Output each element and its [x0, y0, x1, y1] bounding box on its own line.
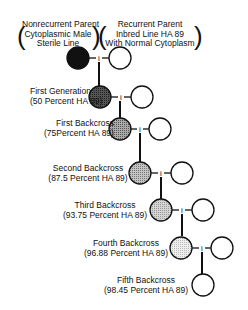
generation-label-2: First Backcross (75Percent HA 89) [44, 118, 108, 138]
generation-label-1: First Generation (50 Percent HA 89) [30, 86, 86, 106]
second-backcross-circle [129, 162, 151, 184]
fifth-backcross-circle [192, 274, 214, 296]
svg-text:i: i [120, 93, 122, 102]
pedigree-diagram: i i i i i i [0, 0, 248, 310]
generation-label-4: Third Backcross (93.75 Percent HA 89) [62, 200, 148, 220]
svg-text:i: i [98, 54, 100, 63]
nonrecurrent-parent-circle [67, 47, 89, 69]
svg-text:i: i [201, 244, 203, 253]
generation-label-3: Second Backcross (87.5 Percent HA 89) [48, 163, 128, 183]
svg-text:i: i [160, 169, 162, 178]
generation-label-6: Fifth Backcross (98.45 Percent HA 89) [102, 275, 190, 295]
generation-label-5: Fourth Backcross (96.88 Percent HA 89) [82, 238, 170, 258]
recurrent-parent-circle [109, 47, 131, 69]
svg-text:i: i [181, 206, 183, 215]
svg-text:i: i [139, 125, 141, 134]
third-backcross-circle [150, 199, 172, 221]
fourth-backcross-circle [170, 237, 192, 259]
